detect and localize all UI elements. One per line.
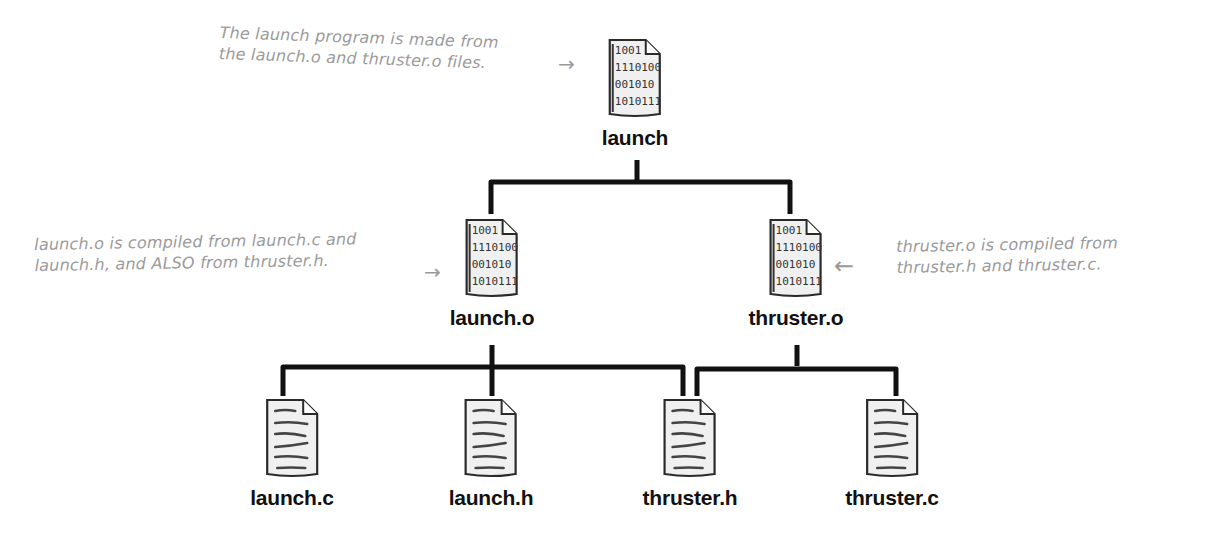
svg-text:001010: 001010 (472, 258, 512, 271)
node-thruster-c: thruster.c (845, 396, 939, 510)
node-label: launch.h (449, 486, 534, 510)
edge-launch-to-objects (491, 160, 790, 214)
arrow-right-icon: → (558, 52, 575, 76)
svg-text:001010: 001010 (776, 258, 816, 271)
node-label: launch (602, 126, 668, 150)
source-file-icon (659, 396, 721, 480)
source-file-icon (460, 396, 522, 480)
svg-text:1110100: 1110100 (472, 241, 518, 254)
node-launch-o: 1001 1110100 001010 1010111 launch.o (450, 216, 535, 330)
svg-text:001010: 001010 (615, 78, 655, 91)
binary-file-icon: 1001 1110100 001010 1010111 (765, 216, 827, 300)
svg-text:1001: 1001 (615, 44, 642, 57)
source-file-icon (861, 396, 923, 480)
node-launch-h: launch.h (449, 396, 534, 510)
svg-text:1001: 1001 (472, 224, 499, 237)
binary-file-icon: 1001 1110100 001010 1010111 (604, 36, 666, 120)
svg-text:1010111: 1010111 (472, 275, 518, 288)
node-label: launch.c (250, 486, 334, 510)
svg-text:1001: 1001 (776, 224, 803, 237)
svg-text:1010111: 1010111 (615, 95, 661, 108)
arrow-right-icon: → (424, 260, 441, 284)
source-file-icon (261, 396, 323, 480)
svg-text:1010111: 1010111 (776, 275, 822, 288)
annotation-launch-o: launch.o is compiled from launch.c and l… (34, 228, 357, 276)
node-launch-c: launch.c (250, 396, 334, 510)
node-thruster-h: thruster.h (643, 396, 738, 510)
node-label: launch.o (450, 306, 535, 330)
annotation-thruster-o: thruster.o is compiled from thruster.h a… (896, 232, 1119, 278)
binary-file-icon: 1001 1110100 001010 1010111 (461, 216, 523, 300)
svg-text:1110100: 1110100 (615, 61, 661, 74)
annotation-line: thruster.h and thruster.c. (896, 253, 1118, 278)
node-label: thruster.h (643, 486, 738, 510)
edge-thruster-o-to-sources (697, 345, 896, 396)
node-thruster-o: 1001 1110100 001010 1010111 thruster.o (749, 216, 844, 330)
node-label: thruster.o (749, 306, 844, 330)
node-label: thruster.c (845, 486, 939, 510)
edge-launch-o-to-sources (283, 345, 683, 396)
arrow-left-icon: ← (834, 252, 854, 280)
dependency-diagram: 1001 1110100 001010 1010111 launch 1001 … (0, 0, 1212, 554)
svg-text:1110100: 1110100 (776, 241, 822, 254)
node-launch: 1001 1110100 001010 1010111 launch (602, 36, 668, 150)
